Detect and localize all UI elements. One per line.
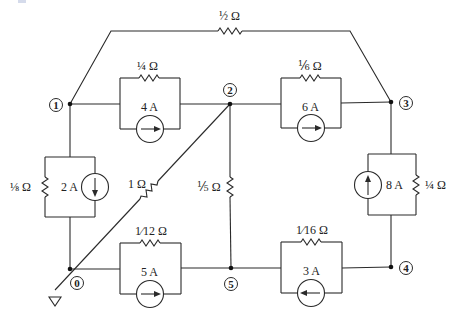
branch-10: ⅛ Ω 2 A [10, 104, 109, 269]
branch-54: 1⁄16 Ω 3 A [231, 223, 391, 307]
svg-text:0: 0 [74, 277, 80, 289]
node-5-dot [229, 266, 234, 271]
svg-text:3: 3 [403, 97, 409, 109]
resistor-icon [413, 175, 419, 195]
resistor-icon [139, 75, 159, 81]
resistor-icon [140, 240, 160, 246]
branch-25: ⅕ Ω [197, 104, 233, 268]
i43-label: 8 A [386, 178, 403, 192]
resistor-icon [42, 177, 48, 197]
branch-23: ⅙ Ω 6 A [230, 59, 391, 142]
i10-label: 2 A [61, 180, 78, 194]
node-2-dot [228, 102, 233, 107]
svg-text:1: 1 [53, 99, 59, 111]
node-label-5: 5 [225, 278, 238, 291]
node-label-4: 4 [400, 262, 413, 275]
node-label-3: 3 [400, 97, 413, 110]
svg-text:4: 4 [403, 262, 409, 274]
resistor-icon [227, 177, 233, 197]
node-label-0: 0 [71, 277, 84, 290]
node-4-dot [389, 265, 394, 270]
r12-label: ¼ Ω [137, 59, 158, 73]
branch-34: 8 A ¼ Ω [355, 102, 447, 267]
node-label-2: 2 [224, 84, 237, 97]
node-label-1: 1 [50, 99, 63, 112]
r34-label: ¼ Ω [425, 178, 446, 192]
i05-label: 5 A [141, 265, 158, 279]
r23-label: ⅙ Ω [298, 59, 322, 73]
r20-label: 1 Ω [128, 177, 146, 191]
resistor-icon [300, 75, 320, 81]
i12-label: 4 A [141, 100, 158, 114]
r25-label: ⅕ Ω [197, 180, 221, 194]
resistor-icon [301, 239, 321, 245]
r05-label: 1⁄12 Ω [135, 224, 167, 238]
ground-icon [49, 297, 61, 306]
svg-text:5: 5 [228, 278, 234, 290]
svg-text:2: 2 [227, 84, 233, 96]
branch-05: 1⁄12 Ω 5 A [70, 224, 231, 308]
r13-label: ½ Ω [219, 9, 240, 23]
node-1-dot [68, 102, 73, 107]
node-3-dot [389, 100, 394, 105]
r10-label: ⅛ Ω [10, 180, 31, 194]
r54-label: 1⁄16 Ω [296, 223, 328, 237]
i45-label: 3 A [303, 264, 320, 278]
resistor-icon [218, 28, 242, 34]
circuit-diagram: ½ Ω ¼ Ω 4 A ⅙ Ω 6 A [0, 0, 459, 322]
i23-label: 6 A [302, 100, 319, 114]
node-0-dot [68, 267, 73, 272]
